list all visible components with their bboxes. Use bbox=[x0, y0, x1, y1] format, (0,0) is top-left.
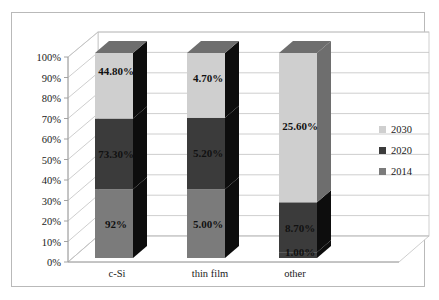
y-tick-10: 10% bbox=[42, 237, 62, 248]
bar-label-c-si-2014: 92% bbox=[105, 218, 127, 230]
legend-swatch-2030 bbox=[379, 126, 386, 133]
y-tick-90: 90% bbox=[42, 73, 62, 84]
bar-group-thin-film[interactable]: 5.00% 5.20% 4.70% bbox=[187, 41, 239, 258]
y-tick-20: 20% bbox=[42, 216, 62, 227]
bar-label-c-si-2020: 73.30% bbox=[98, 148, 134, 160]
y-tick-100: 100% bbox=[37, 52, 62, 63]
bar-label-thin-film-2014: 5.00% bbox=[193, 218, 223, 230]
category-label-other: other bbox=[284, 268, 306, 279]
bar-group-c-si[interactable]: 92% 73.30% 44.80% bbox=[95, 41, 147, 258]
bar-label-other-2014: 1.00% bbox=[285, 246, 315, 258]
chart-container: 100% 90% 80% 70% 60% 50% 40% 30% 20% 10%… bbox=[0, 0, 439, 300]
y-tick-70: 70% bbox=[42, 114, 62, 125]
y-axis bbox=[64, 57, 68, 262]
x-axis-category-labels: c-Si thin film other bbox=[109, 268, 307, 279]
category-label-c-si: c-Si bbox=[109, 268, 126, 279]
chart-plot-area: 100% 90% 80% 70% 60% 50% 40% 30% 20% 10%… bbox=[0, 0, 439, 300]
legend-label-2014: 2014 bbox=[391, 166, 413, 177]
legend-label-2030: 2030 bbox=[391, 124, 412, 135]
bar-segment-thin-film-2030 bbox=[187, 53, 225, 118]
bar-label-other-2030: 25.60% bbox=[282, 120, 318, 132]
bar-label-other-2020: 8.70% bbox=[285, 222, 315, 234]
legend-label-2020: 2020 bbox=[391, 145, 412, 156]
legend: 2030 2020 2014 bbox=[379, 124, 413, 177]
y-axis-tick-labels: 100% 90% 80% 70% 60% 50% 40% 30% 20% 10%… bbox=[37, 52, 62, 268]
bar-label-thin-film-2020: 5.20% bbox=[193, 147, 223, 159]
bar-segment-c-si-2030 bbox=[95, 53, 133, 119]
bar-group-other[interactable]: 8.70% 1.00% 25.60% bbox=[279, 41, 331, 258]
bar-label-c-si-2030: 44.80% bbox=[98, 65, 134, 77]
y-tick-60: 60% bbox=[42, 134, 62, 145]
legend-swatch-2020 bbox=[379, 147, 386, 154]
y-tick-0: 0% bbox=[47, 257, 61, 268]
y-tick-30: 30% bbox=[42, 196, 62, 207]
y-tick-50: 50% bbox=[42, 155, 62, 166]
y-tick-80: 80% bbox=[42, 93, 62, 104]
y-tick-40: 40% bbox=[42, 175, 62, 186]
bar-label-thin-film-2030: 4.70% bbox=[193, 72, 223, 84]
legend-swatch-2014 bbox=[379, 168, 386, 175]
category-label-thin-film: thin film bbox=[192, 268, 228, 279]
